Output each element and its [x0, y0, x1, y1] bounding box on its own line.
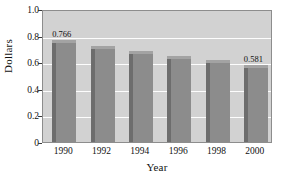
bar-top-face: [129, 51, 153, 54]
bar-top-face: [91, 46, 115, 49]
x-axis-title: Year: [42, 161, 272, 173]
bar-top-face: [206, 60, 230, 63]
gridline: [43, 38, 271, 39]
bar-front-face: [210, 60, 230, 142]
bar-chart: Dollars 00.20.40.60.81.0 Year 1990199219…: [0, 0, 284, 180]
bar: [244, 65, 268, 142]
bar-front-face: [95, 46, 115, 142]
bar-top-face: [52, 40, 76, 43]
x-tick-label: 1994: [120, 146, 160, 156]
bar-front-face: [56, 40, 76, 142]
y-tick-label: 0.8: [14, 32, 39, 42]
x-tick-label: 2000: [235, 146, 275, 156]
y-tick-mark: [38, 143, 42, 144]
y-tick-mark: [38, 90, 42, 91]
x-tick-label: 1992: [82, 146, 122, 156]
bar: [52, 40, 76, 142]
y-tick-label: 0.2: [14, 111, 39, 121]
bar-side-face: [129, 54, 133, 142]
x-tick-label: 1990: [43, 146, 83, 156]
gridline: [43, 117, 271, 118]
bar: [206, 60, 230, 142]
bar-front-face: [248, 65, 268, 142]
x-tick-label: 1998: [197, 146, 237, 156]
bar-front-face: [133, 51, 153, 142]
bar-side-face: [91, 49, 95, 142]
gridline: [43, 91, 271, 92]
y-tick-label: 0.6: [14, 58, 39, 68]
y-axis-title: Dollars: [2, 24, 14, 88]
y-tick-label: 1.0: [14, 5, 39, 15]
y-tick-label: 0: [14, 138, 39, 148]
plot-area: [42, 10, 272, 143]
bar-side-face: [244, 68, 248, 142]
bar: [91, 46, 115, 142]
bar-value-label: 0.766: [52, 30, 71, 39]
gridline: [43, 64, 271, 65]
bar-side-face: [167, 59, 171, 142]
y-tick-mark: [38, 63, 42, 64]
y-axis-tick-labels: 00.20.40.60.81.0: [14, 0, 39, 180]
y-tick-mark: [38, 10, 42, 11]
x-tick-label: 1996: [158, 146, 198, 156]
bar-front-face: [171, 56, 191, 142]
y-tick-mark: [38, 116, 42, 117]
y-tick-mark: [38, 37, 42, 38]
bar: [129, 51, 153, 142]
bar-top-face: [167, 56, 191, 59]
bar: [167, 56, 191, 142]
bar-side-face: [52, 43, 56, 142]
bar-side-face: [206, 63, 210, 142]
bar-value-label: 0.581: [244, 55, 263, 64]
y-tick-label: 0.4: [14, 85, 39, 95]
bar-top-face: [244, 65, 268, 68]
